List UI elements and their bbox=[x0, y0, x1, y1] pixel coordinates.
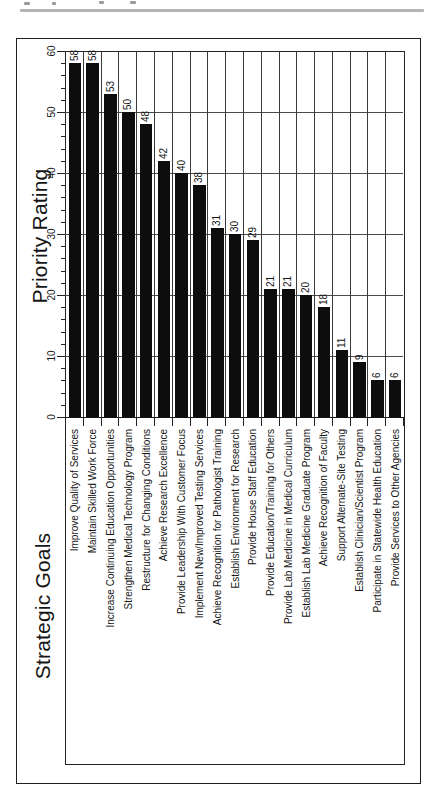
category-axis-tick bbox=[172, 417, 173, 426]
bar-value-label: 53 bbox=[105, 52, 117, 92]
bar-value-label: 21 bbox=[282, 247, 294, 287]
value-axis-major-tick bbox=[57, 173, 65, 174]
bar-value-label: 58 bbox=[69, 21, 81, 61]
category-label: Achieve Research Excellence bbox=[157, 429, 170, 769]
header-speck bbox=[24, 2, 30, 5]
bar bbox=[282, 289, 295, 417]
category-separator bbox=[190, 51, 191, 417]
bar-value-label: 30 bbox=[229, 192, 241, 232]
category-separator bbox=[385, 51, 386, 417]
bar-value-label: 40 bbox=[176, 131, 188, 171]
category-axis-line bbox=[65, 417, 403, 418]
category-label: Provide Education/Training for Others bbox=[264, 429, 277, 769]
bar-value-label: 58 bbox=[87, 21, 99, 61]
value-axis-major-tick bbox=[57, 417, 65, 418]
category-axis-tick bbox=[279, 417, 280, 426]
value-axis-minor-tick bbox=[61, 100, 65, 101]
value-axis-minor-tick bbox=[61, 319, 65, 320]
scanned-page: Priority Rating Strategic Goals 01020304… bbox=[0, 0, 440, 807]
value-tick-label: 30 bbox=[46, 212, 58, 256]
bar bbox=[371, 380, 384, 417]
category-separator bbox=[350, 51, 351, 417]
value-axis-minor-tick bbox=[61, 136, 65, 137]
bar bbox=[247, 240, 260, 417]
category-axis-tick bbox=[118, 417, 119, 426]
category-axis-tick bbox=[385, 417, 386, 426]
value-tick-label: 0 bbox=[46, 395, 58, 439]
category-axis-tick bbox=[403, 417, 404, 426]
category-separator bbox=[261, 51, 262, 417]
category-separator bbox=[243, 51, 244, 417]
bar bbox=[175, 173, 188, 417]
bar bbox=[211, 228, 224, 417]
category-label: Achieve Recognition of Faculty bbox=[317, 429, 330, 769]
value-axis-minor-tick bbox=[61, 222, 65, 223]
category-separator bbox=[154, 51, 155, 417]
bar bbox=[229, 234, 242, 417]
header-divider-rule bbox=[20, 9, 424, 12]
value-axis-major-tick bbox=[57, 356, 65, 357]
bar-value-label: 42 bbox=[158, 119, 170, 159]
value-axis-minor-tick bbox=[61, 380, 65, 381]
category-separator bbox=[172, 51, 173, 417]
bar-value-label: 48 bbox=[140, 82, 152, 122]
value-axis-minor-tick bbox=[61, 88, 65, 89]
value-axis-major-tick bbox=[57, 234, 65, 235]
value-tick-label: 20 bbox=[46, 273, 58, 317]
category-axis-tick bbox=[190, 417, 191, 426]
value-tick-label: 40 bbox=[46, 151, 58, 195]
category-axis-tick bbox=[332, 417, 333, 426]
category-label: Maintain Skilled Work Force bbox=[86, 429, 99, 769]
value-axis-minor-tick bbox=[61, 246, 65, 247]
category-separator bbox=[118, 51, 119, 417]
value-axis-minor-tick bbox=[61, 197, 65, 198]
value-axis-minor-tick bbox=[61, 185, 65, 186]
value-axis-major-tick bbox=[57, 112, 65, 113]
category-label: Improve Quality of Services bbox=[68, 429, 81, 769]
category-label: Support Alternate-Site Testing bbox=[335, 429, 348, 769]
category-axis-tick bbox=[101, 417, 102, 426]
category-separator bbox=[296, 51, 297, 417]
value-tick-label: 60 bbox=[46, 29, 58, 73]
value-axis-minor-tick bbox=[61, 307, 65, 308]
bar-value-label: 38 bbox=[193, 143, 205, 183]
category-label: Increase Continuing Education Opportunit… bbox=[104, 429, 117, 769]
value-axis-minor-tick bbox=[61, 368, 65, 369]
bar-value-label: 9 bbox=[354, 320, 366, 360]
value-axis-minor-tick bbox=[61, 161, 65, 162]
bar bbox=[122, 112, 135, 417]
bar bbox=[140, 124, 153, 417]
category-axis-tick bbox=[261, 417, 262, 426]
value-axis-major-tick bbox=[57, 51, 65, 52]
bar bbox=[69, 63, 82, 417]
category-separator bbox=[225, 51, 226, 417]
bar bbox=[264, 289, 277, 417]
category-separator bbox=[314, 51, 315, 417]
category-separator bbox=[279, 51, 280, 417]
category-axis-tick bbox=[296, 417, 297, 426]
bar-value-label: 31 bbox=[211, 186, 223, 226]
bar-value-label: 21 bbox=[265, 247, 277, 287]
value-axis-minor-tick bbox=[61, 283, 65, 284]
bar-value-label: 18 bbox=[318, 265, 330, 305]
value-axis-minor-tick bbox=[61, 344, 65, 345]
category-axis-tick bbox=[154, 417, 155, 426]
category-label: Establish Lab Medicine Graduate Program bbox=[300, 429, 313, 769]
category-separator bbox=[101, 51, 102, 417]
value-axis-minor-tick bbox=[61, 393, 65, 394]
category-separator bbox=[136, 51, 137, 417]
category-label: Restructure for Changing Conditions bbox=[140, 429, 153, 769]
category-separator bbox=[207, 51, 208, 417]
category-axis-tick bbox=[225, 417, 226, 426]
value-axis-minor-tick bbox=[61, 332, 65, 333]
category-label: Achieve Recognition for Pathologist Trai… bbox=[211, 429, 224, 769]
category-label: Strengthen Medical Technology Program bbox=[122, 429, 135, 769]
value-axis-minor-tick bbox=[61, 405, 65, 406]
category-axis-tick bbox=[207, 417, 208, 426]
category-axis-tick bbox=[65, 417, 66, 426]
category-axis-tick bbox=[243, 417, 244, 426]
category-separator bbox=[83, 51, 84, 417]
value-axis-minor-tick bbox=[61, 210, 65, 211]
bar-value-label: 20 bbox=[300, 253, 312, 293]
value-axis-minor-tick bbox=[61, 258, 65, 259]
